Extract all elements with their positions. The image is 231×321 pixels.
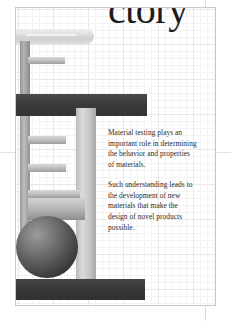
grip-tab-4-shape xyxy=(28,190,80,198)
body-text-block: Material testing plays an important role… xyxy=(108,128,198,233)
grip-tab-1-shape xyxy=(28,57,65,64)
paragraph-2: Such understanding leads to the developm… xyxy=(108,180,198,234)
dark-base-bar-shape xyxy=(16,279,145,300)
page-title: ctory xyxy=(108,8,215,32)
grip-tab-2-shape xyxy=(28,136,66,144)
grip-tab-3-shape xyxy=(28,164,66,172)
vertical-post-upper-shape xyxy=(20,41,30,95)
document-page: ctory Material testing plays an importan… xyxy=(16,8,215,305)
paragraph-1: Material testing plays an important role… xyxy=(108,128,198,171)
load-cell-sphere-shape xyxy=(16,216,78,278)
screenshot-canvas: ctory Material testing plays an importan… xyxy=(0,0,231,321)
